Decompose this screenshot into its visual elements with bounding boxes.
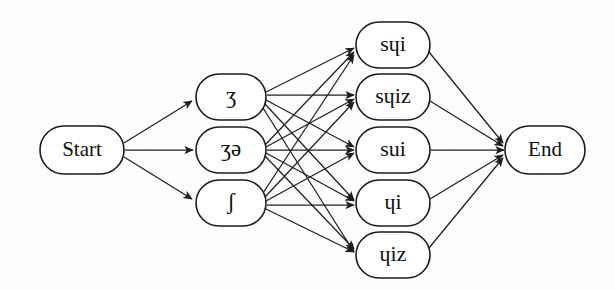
node-phone-ezh-schwa-label: ʒə <box>221 136 241 161</box>
node-phone-esh-label: ʃ <box>226 189 236 214</box>
edge-m1-r1 <box>266 48 354 92</box>
node-word-sqiz[interactable]: sɥiz <box>356 74 430 120</box>
edge-r2-end <box>430 101 503 146</box>
edge-start-m3 <box>124 157 192 199</box>
edge-group-middle-to-right <box>263 48 354 252</box>
edge-group-right-to-end <box>429 52 504 248</box>
node-phone-ezh-schwa[interactable]: ʒə <box>196 127 266 173</box>
edge-group-start-to-middle <box>124 101 193 199</box>
edge-m3-r1 <box>263 55 354 193</box>
edge-r4-end <box>430 155 503 199</box>
edge-m2-r1 <box>265 52 354 145</box>
node-word-qi-label: ɥi <box>384 189 401 214</box>
edge-m1-r4 <box>265 104 354 200</box>
node-end-label: End <box>528 137 562 161</box>
node-word-sqiz-label: sɥiz <box>375 83 411 108</box>
node-word-sui-label: sui <box>380 136 406 161</box>
edge-r5-end <box>429 158 503 248</box>
node-word-sui[interactable]: sui <box>356 127 430 173</box>
edge-r1-end <box>429 52 503 143</box>
lattice-graph: Start ʒ ʒə ʃ sɥi sɥiz sui ɥi <box>0 0 615 290</box>
node-phone-ezh[interactable]: ʒ <box>196 74 266 120</box>
node-start[interactable]: Start <box>40 126 124 174</box>
node-end[interactable]: End <box>505 126 585 174</box>
node-word-qi[interactable]: ɥi <box>356 180 430 226</box>
node-word-sqi-label: sɥi <box>380 31 406 56</box>
node-phone-ezh-label: ʒ <box>226 83 236 108</box>
node-word-sqi[interactable]: sɥi <box>356 22 430 68</box>
node-phone-esh[interactable]: ʃ <box>196 180 266 226</box>
node-start-label: Start <box>62 137 102 161</box>
node-word-qiz-label: ɥiz <box>380 241 407 266</box>
node-word-qiz[interactable]: ɥiz <box>356 232 430 278</box>
edge-start-m1 <box>124 101 192 143</box>
pronunciation-lattice-figure: Start ʒ ʒə ʃ sɥi sɥiz sui ɥi <box>0 0 615 290</box>
